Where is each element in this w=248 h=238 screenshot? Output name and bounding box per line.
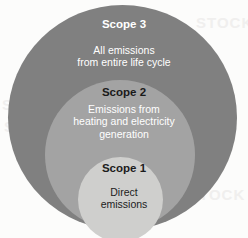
scope-2-description-line: heating and electricity: [0, 115, 248, 127]
scope-1-description-line: Direct: [0, 186, 248, 198]
scope-1-description-line: emissions: [0, 198, 248, 210]
scope-3-description: All emissions from entire life cycle: [0, 44, 248, 69]
scope-3-heading: Scope 3: [0, 18, 248, 32]
scope-1-description: Direct emissions: [0, 186, 248, 211]
scope-2-description-line: Emissions from: [0, 103, 248, 115]
scope-1-heading: Scope 1: [0, 162, 248, 176]
scope-3-description-line: All emissions: [0, 44, 248, 56]
scope-2-description: Emissions from heating and electricity g…: [0, 103, 248, 140]
scope-emissions-diagram: STOCK STOCK STOCK STOCK Scope 3 All emis…: [0, 0, 248, 238]
scope-3-description-line: from entire life cycle: [0, 56, 248, 68]
scope-2-description-line: generation: [0, 128, 248, 140]
scope-2-heading: Scope 2: [0, 86, 248, 100]
